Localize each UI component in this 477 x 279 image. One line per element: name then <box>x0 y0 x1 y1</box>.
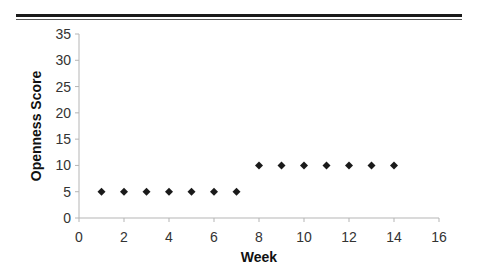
data-point-diamond-icon <box>98 188 106 196</box>
y-tick-label: 15 <box>55 131 71 147</box>
x-tick-label: 0 <box>75 229 83 245</box>
x-tick-label: 6 <box>210 229 218 245</box>
data-point-diamond-icon <box>165 188 173 196</box>
data-point-diamond-icon <box>233 188 241 196</box>
scatter-chart: 051015202530350246810121416 Week Opennes… <box>0 0 477 279</box>
data-point-diamond-icon <box>210 188 218 196</box>
y-tick-label: 10 <box>55 157 71 173</box>
y-axis-title: Openness Score <box>28 71 44 182</box>
y-tick-label: 35 <box>55 26 71 42</box>
data-point-diamond-icon <box>255 161 263 169</box>
x-tick-label: 14 <box>386 229 402 245</box>
y-tick-label: 0 <box>63 210 71 226</box>
x-axis-title: Week <box>241 249 278 265</box>
y-tick-label: 25 <box>55 79 71 95</box>
data-points <box>98 161 399 195</box>
data-point-diamond-icon <box>390 161 398 169</box>
y-tick-label: 5 <box>63 184 71 200</box>
data-point-diamond-icon <box>345 161 353 169</box>
x-tick-label: 8 <box>255 229 263 245</box>
y-tick-label: 30 <box>55 52 71 68</box>
x-tick-label: 16 <box>431 229 447 245</box>
data-point-diamond-icon <box>143 188 151 196</box>
data-point-diamond-icon <box>188 188 196 196</box>
x-tick-label: 12 <box>341 229 357 245</box>
x-tick-label: 10 <box>296 229 312 245</box>
data-point-diamond-icon <box>120 188 128 196</box>
data-point-diamond-icon <box>323 161 331 169</box>
y-tick-label: 20 <box>55 105 71 121</box>
data-point-diamond-icon <box>368 161 376 169</box>
axes: 051015202530350246810121416 <box>55 26 447 245</box>
x-tick-label: 4 <box>165 229 173 245</box>
x-tick-label: 2 <box>120 229 128 245</box>
data-point-diamond-icon <box>300 161 308 169</box>
data-point-diamond-icon <box>278 161 286 169</box>
